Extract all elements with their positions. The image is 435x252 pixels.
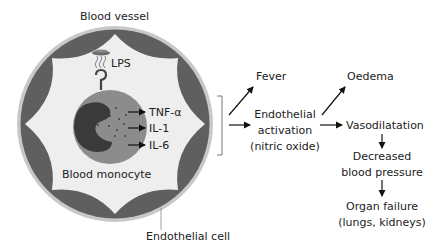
- decreased-bp-line1: Decreased: [337, 150, 427, 163]
- blood-monocyte-label: Blood monocyte: [62, 168, 151, 181]
- decreased-bp-line2: blood pressure: [337, 166, 427, 179]
- fever-label: Fever: [256, 70, 286, 83]
- organ-failure-block: Organ failure (lungs, kidneys): [337, 200, 427, 229]
- lps-label: LPS: [111, 57, 131, 70]
- endothelial-activation-block: Endothelial activation (nitric oxide): [250, 108, 320, 153]
- cytokine-bracket: [217, 96, 222, 155]
- arrow-to-oedema: [322, 87, 345, 115]
- endothelial-activation-line1: Endothelial: [250, 108, 320, 121]
- vasodilatation-label: Vasodilatation: [346, 119, 424, 132]
- endothelial-activation-line2: activation: [250, 124, 320, 137]
- oedema-label: Oedema: [347, 70, 394, 83]
- decreased-bp-block: Decreased blood pressure: [337, 150, 427, 179]
- organ-failure-line2: (lungs, kidneys): [337, 216, 427, 229]
- cytokine-il6-label: IL-6: [149, 139, 169, 152]
- endothelial-cell-label: Endothelial cell: [146, 230, 230, 243]
- cytokine-il1-label: IL-1: [149, 122, 169, 135]
- blood-vessel-label: Blood vessel: [80, 10, 149, 23]
- organ-failure-line1: Organ failure: [337, 200, 427, 213]
- endothelial-activation-line3: (nitric oxide): [250, 140, 320, 153]
- cytokine-tnf-label: TNF-α: [149, 106, 182, 119]
